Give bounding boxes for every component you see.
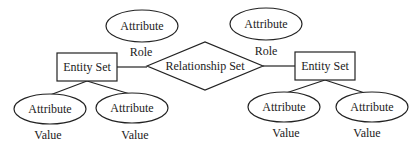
right-value-caption-2: Value (353, 126, 380, 140)
right-entity-set: Entity Set (295, 52, 355, 80)
left-value-attribute-2: Attribute (96, 93, 168, 123)
right-value-attribute-2: Attribute (336, 92, 408, 122)
right-value-attr-link-2 (325, 80, 368, 94)
left-value-attribute-1-label: Attribute (28, 102, 71, 116)
left-value-caption-1: Value (34, 128, 61, 142)
relationship-set: Relationship Set (147, 42, 263, 90)
left-value-attr-link-2 (87, 81, 130, 94)
right-role-attribute: Attribute (230, 8, 302, 40)
left-entity-label: Entity Set (63, 60, 111, 74)
right-value-attribute-1: Attribute (248, 92, 320, 122)
er-diagram: Attribute Role Attribute Role Entity Set… (0, 0, 416, 145)
left-role-attribute-label: Attribute (120, 19, 163, 33)
right-value-caption-1: Value (272, 126, 299, 140)
relationship-label: Relationship Set (166, 59, 246, 73)
right-role-attribute-label: Attribute (244, 17, 287, 31)
left-value-attribute-2-label: Attribute (110, 101, 153, 115)
left-role-attribute: Attribute (106, 10, 178, 42)
right-value-attr-link-1 (286, 80, 325, 93)
left-value-attr-link-1 (50, 81, 87, 95)
left-entity-set: Entity Set (57, 53, 117, 81)
left-value-attribute-1: Attribute (14, 94, 86, 124)
right-value-attribute-2-label: Attribute (350, 100, 393, 114)
left-value-caption-2: Value (121, 128, 148, 142)
right-entity-label: Entity Set (301, 59, 349, 73)
left-role-caption: Role (130, 45, 153, 59)
right-value-attribute-1-label: Attribute (262, 100, 305, 114)
right-role-caption: Role (255, 44, 278, 58)
